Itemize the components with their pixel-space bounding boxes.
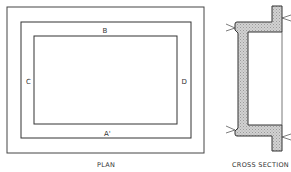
cross-section-view: CROSS SECTION [226, 6, 291, 169]
mark-icon-bottom-right [282, 134, 291, 140]
plan-label-left: C [26, 78, 31, 86]
plan-caption: PLAN [97, 161, 115, 169]
cross-section-caption: CROSS SECTION [232, 161, 289, 169]
cross-section-profile [235, 6, 282, 151]
diagram-canvas: B C D A' PLAN CROSS SECTION [0, 0, 291, 172]
mark-icon-bottom-left [226, 126, 235, 133]
plan-view: B C D A' PLAN [7, 7, 204, 169]
plan-middle-rect [21, 22, 191, 138]
mark-icon-top-right [282, 15, 291, 21]
plan-label-bottom: A' [104, 130, 111, 138]
mark-icon-top-left [226, 24, 235, 31]
plan-label-right: D [182, 78, 187, 86]
plan-inner-rect [34, 36, 177, 124]
plan-label-top: B [103, 27, 108, 35]
